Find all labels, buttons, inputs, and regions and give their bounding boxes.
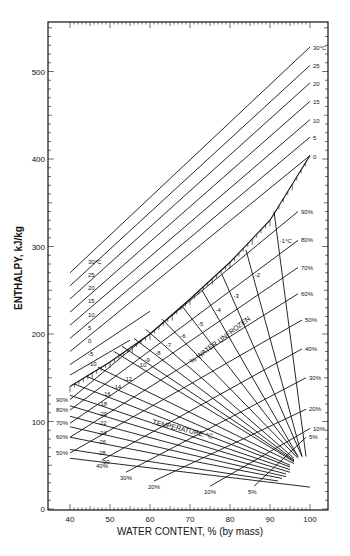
frozen-temperature-label: -4 (216, 307, 222, 313)
frozen-temperature-label: -26 (97, 439, 106, 445)
temperature-label-right: 30°C (313, 45, 327, 51)
y-tick-label: 100 (32, 418, 46, 427)
fraction-label-right: 80% (301, 237, 314, 243)
y-tick-label: 400 (32, 155, 46, 164)
annotation-temperature: TEMPERATURE °C (152, 418, 214, 440)
temperature-line-frozen (274, 212, 306, 457)
frozen-temperature-label: -10 (138, 362, 147, 368)
unfrozen-fraction-line (254, 437, 306, 486)
fraction-label-right: 70% (301, 265, 314, 271)
x-tick-label: 80 (226, 515, 235, 524)
frozen-temperature-label: -22 (98, 420, 107, 426)
temperature-label-left: 0 (88, 338, 92, 344)
temperature-label-right: 20 (313, 81, 320, 87)
enthalpy-chart: 4050607080901000100200300400500 30°C30°C… (0, 0, 350, 556)
fraction-label-right: 30% (309, 375, 322, 381)
fraction-label-bottom: 30% (120, 475, 133, 481)
temperature-label-left: 10 (88, 312, 95, 318)
temperature-line-unfrozen (70, 101, 310, 312)
fraction-label-left: 60% (56, 434, 69, 440)
y-tick-label: 200 (32, 330, 46, 339)
frozen-temperature-label: -7 (166, 342, 172, 348)
fraction-label-bottom: 5% (248, 489, 257, 495)
fraction-label-right: 20% (309, 406, 322, 412)
plot-frame (48, 22, 328, 510)
x-tick-label: 60 (146, 515, 155, 524)
fraction-label-right: 60% (301, 291, 314, 297)
fraction-label-left: 70% (56, 420, 69, 426)
temperature-label-left: -5 (88, 351, 94, 357)
temperature-label-right: 5 (313, 135, 317, 141)
temperature-label-left: 5 (88, 325, 92, 331)
fraction-label-bottom: 20% (148, 484, 161, 490)
x-axis-title: WATER CONTENT, % (by mass) (117, 526, 263, 537)
y-tick-label: 300 (32, 243, 46, 252)
frozen-temperature-label: -1°C (280, 238, 293, 244)
temperature-label-right: 0 (313, 154, 317, 160)
temperature-line-unfrozen (70, 83, 310, 299)
temperature-label-right: 15 (313, 99, 320, 105)
fraction-label-right: 10% (313, 426, 326, 432)
frozen-temperature-label: -24 (98, 430, 107, 436)
fraction-label-right: 40% (305, 346, 318, 352)
temperature-label-left: 20 (88, 285, 95, 291)
fraction-label-right: 90% (301, 209, 314, 215)
y-axis-title: ENTHALPY, kJ/kg (13, 226, 24, 310)
x-tick-label: 40 (66, 515, 75, 524)
temperature-label-right: 25 (313, 63, 320, 69)
unfrozen-fraction-line (70, 240, 298, 410)
temperature-line-unfrozen (70, 47, 310, 273)
temperature-label-left: 25 (88, 272, 95, 278)
temperature-line-unfrozen (70, 120, 310, 326)
y-tick-label: 0 (41, 505, 46, 514)
frozen-temperature-label: -18 (98, 401, 107, 407)
temperature-label-left: 30°C (88, 259, 102, 265)
x-tick-label: 70 (186, 515, 195, 524)
y-tick-label: 500 (32, 68, 46, 77)
fraction-label-right: 5% (309, 434, 318, 440)
unfrozen-fraction-line (70, 212, 298, 400)
fraction-label-left: 50% (56, 450, 69, 456)
temperature-line-unfrozen (70, 137, 310, 338)
fraction-label-left: 90% (56, 397, 69, 403)
frozen-temperature-label: -14 (112, 384, 121, 390)
frozen-temperature-label: -12 (124, 376, 133, 382)
x-tick-label: 90 (266, 515, 275, 524)
frozen-temperature-label: -6 (180, 333, 186, 339)
frozen-temperature-label: -3 (234, 293, 240, 299)
frozen-temperature-label: -8 (155, 350, 161, 356)
temperature-line-frozen (122, 346, 294, 461)
temperature-label-right: 10 (313, 118, 320, 124)
fraction-label-right: 50% (305, 317, 318, 323)
temperature-line-unfrozen (70, 156, 310, 352)
fraction-label-bottom: 40% (96, 463, 109, 469)
temperature-label-left: 15 (88, 298, 95, 304)
temperature-line-unfrozen (70, 65, 310, 286)
temperature-label-left: -10 (88, 361, 97, 367)
x-tick-label: 50 (106, 515, 115, 524)
frozen-temperature-label: -16 (102, 391, 111, 397)
frozen-temperature-label: -20 (98, 411, 107, 417)
fraction-label-left: 80% (56, 407, 69, 413)
x-tick-label: 100 (303, 515, 317, 524)
temperature-line-frozen (222, 275, 302, 457)
frozen-temperature-label: -5 (198, 321, 204, 327)
temperature-line-frozen (134, 338, 294, 460)
frozen-temperature-label: -2 (255, 272, 261, 278)
frozen-temperature-label: -28 (97, 450, 106, 456)
fraction-label-bottom: 10% (204, 489, 217, 495)
